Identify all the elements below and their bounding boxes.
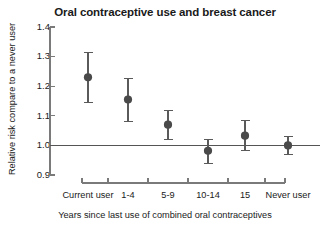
error-bar-series — [84, 52, 293, 164]
data-point-marker — [84, 73, 92, 81]
data-point-group — [164, 110, 173, 139]
plot-area — [0, 0, 330, 227]
data-point-marker — [284, 141, 292, 149]
data-point-marker — [124, 95, 132, 103]
data-point-group — [241, 120, 250, 150]
data-point-group — [284, 137, 293, 155]
axes-group — [50, 27, 320, 183]
chart-figure: Oral contraceptive use and breast cancer… — [0, 0, 330, 227]
data-point-marker — [164, 121, 172, 129]
data-point-group — [124, 79, 133, 121]
data-point-group — [204, 139, 213, 164]
data-point-marker — [241, 132, 249, 140]
data-point-group — [84, 52, 93, 102]
data-point-marker — [204, 147, 212, 155]
